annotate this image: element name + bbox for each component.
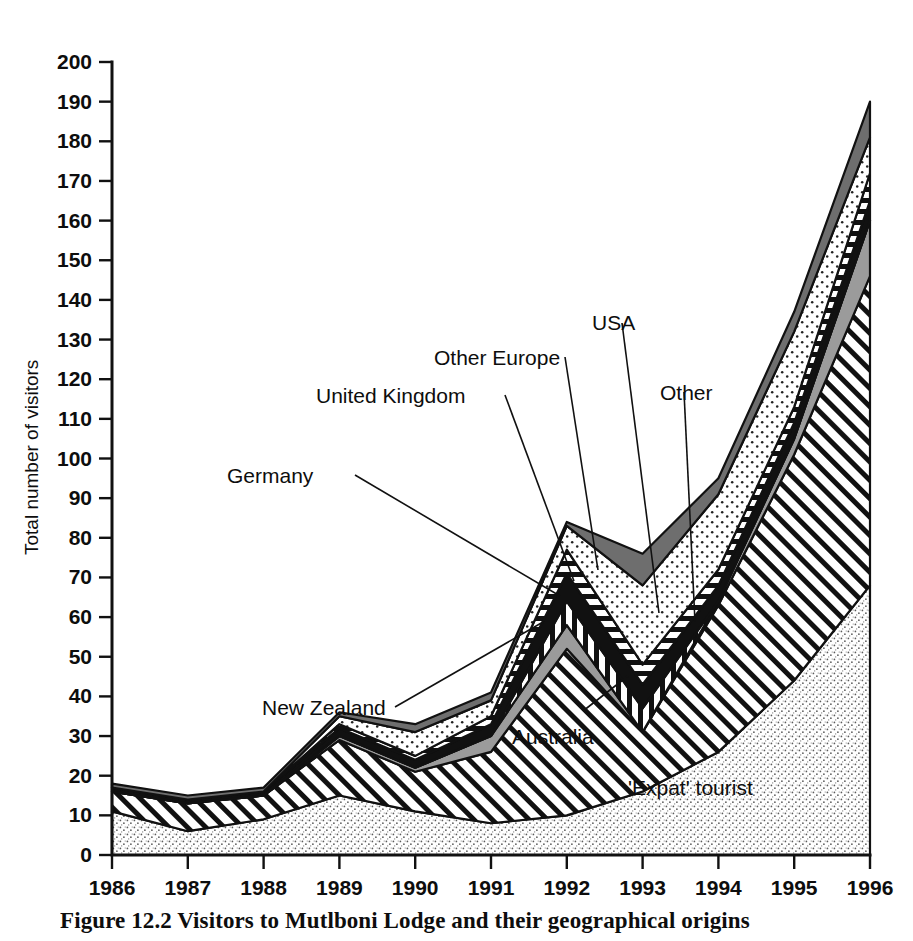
x-axis-ticks: 1986198719881989199019911992199319941995… [89, 855, 894, 899]
annotation-new-zealand: New Zealand [262, 696, 386, 719]
x-tick-label: 1993 [619, 876, 666, 899]
x-tick-label: 1989 [316, 876, 363, 899]
annotation-united-kingdom: United Kingdom [316, 384, 465, 407]
y-tick-label: 200 [57, 50, 92, 73]
y-tick-label: 0 [80, 843, 92, 866]
y-tick-label: 170 [57, 169, 92, 192]
x-tick-label: 1987 [164, 876, 211, 899]
x-tick-label: 1988 [240, 876, 287, 899]
annotation-germany: Germany [227, 464, 314, 487]
y-tick-label: 150 [57, 248, 92, 271]
y-tick-label: 130 [57, 328, 92, 351]
annotation-expat-tourist: 'Expat' tourist [628, 776, 753, 799]
y-tick-label: 80 [69, 526, 92, 549]
y-tick-label: 100 [57, 447, 92, 470]
y-tick-label: 40 [69, 684, 92, 707]
figure-root: 0102030405060708090100110120130140150160… [0, 0, 913, 941]
x-tick-label: 1992 [543, 876, 590, 899]
y-tick-label: 50 [69, 645, 92, 668]
stacked-area-chart: 0102030405060708090100110120130140150160… [0, 0, 913, 941]
annotation-other-europe: Other Europe [434, 346, 560, 369]
y-tick-label: 120 [57, 367, 92, 390]
y-tick-label: 160 [57, 209, 92, 232]
x-tick-label: 1986 [89, 876, 136, 899]
annotation-usa: USA [592, 311, 635, 334]
annotation-australia: Australia [512, 725, 594, 748]
y-tick-label: 70 [69, 565, 92, 588]
annotation-other: Other [660, 381, 713, 404]
area-series-group [112, 102, 870, 855]
y-tick-label: 180 [57, 129, 92, 152]
y-tick-label: 140 [57, 288, 92, 311]
y-tick-label: 30 [69, 724, 92, 747]
y-tick-label: 10 [69, 803, 92, 826]
y-tick-label: 190 [57, 90, 92, 113]
y-axis-title: Total number of visitors [21, 360, 42, 555]
y-tick-label: 20 [69, 764, 92, 787]
x-tick-label: 1996 [847, 876, 894, 899]
x-tick-label: 1990 [392, 876, 439, 899]
y-axis-ticks: 0102030405060708090100110120130140150160… [57, 50, 112, 866]
x-tick-label: 1995 [771, 876, 818, 899]
y-tick-label: 110 [58, 407, 92, 430]
figure-caption: Figure 12.2 Visitors to Mutlboni Lodge a… [60, 908, 900, 934]
y-tick-label: 60 [69, 605, 92, 628]
y-tick-label: 90 [69, 486, 92, 509]
x-tick-label: 1994 [695, 876, 742, 899]
x-tick-label: 1991 [468, 876, 515, 899]
